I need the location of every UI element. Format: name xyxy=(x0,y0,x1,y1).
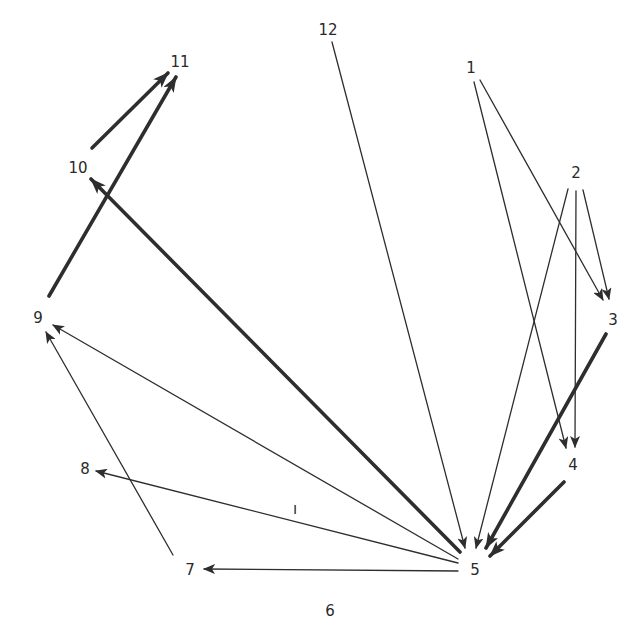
directed-graph-diagram: 123456789101112 ı xyxy=(0,0,642,632)
node-1-label: 1 xyxy=(466,59,476,77)
edge-2-to-3 xyxy=(583,190,609,299)
node-10-label: 10 xyxy=(68,159,87,177)
edges-layer xyxy=(46,42,609,571)
node-4-label: 4 xyxy=(568,456,578,474)
node-5-label: 5 xyxy=(470,561,480,579)
edge-2-to-4 xyxy=(575,191,576,447)
nodes-layer: 123456789101112 xyxy=(33,21,618,620)
node-3-label: 3 xyxy=(608,311,618,329)
edge-5-to-8 xyxy=(96,471,458,563)
edge-9-to-11 xyxy=(49,77,176,296)
edge-5-to-10 xyxy=(91,179,460,552)
annotations-layer: ı xyxy=(293,500,297,518)
node-9-label: 9 xyxy=(33,309,43,327)
edge-1-to-4 xyxy=(474,82,566,448)
annotation-mark: ı xyxy=(293,500,297,518)
node-8-label: 8 xyxy=(80,460,90,478)
edge-12-to-5 xyxy=(332,42,465,548)
edge-1-to-3 xyxy=(480,80,603,300)
node-6-label: 6 xyxy=(325,602,335,620)
edge-5-to-9 xyxy=(53,325,458,559)
edge-7-to-9 xyxy=(46,332,173,555)
node-11-label: 11 xyxy=(170,53,189,71)
edge-5-to-7 xyxy=(204,569,458,571)
node-7-label: 7 xyxy=(185,561,195,579)
node-2-label: 2 xyxy=(571,164,581,182)
node-12-label: 12 xyxy=(318,21,337,39)
